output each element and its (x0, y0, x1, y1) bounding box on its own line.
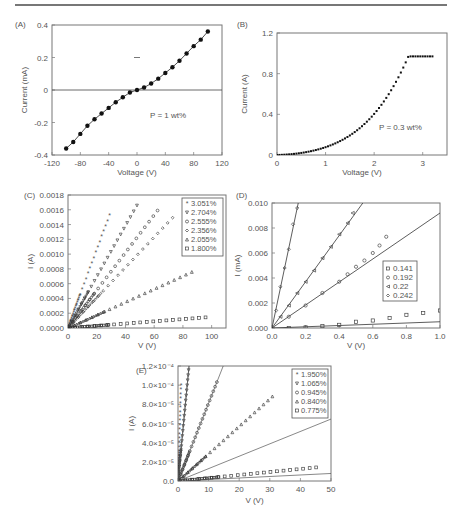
marker (337, 141, 339, 143)
y-axis-label: Current (mA) (20, 67, 29, 114)
marker (113, 323, 116, 326)
marker (116, 239, 119, 242)
marker (230, 474, 233, 477)
y-tick-label: 0.0000 (40, 324, 65, 333)
marker (363, 259, 366, 262)
marker (84, 304, 86, 306)
marker (289, 469, 292, 472)
y-tick-label: 8.0×10⁻⁵ (142, 400, 174, 409)
x-tick-label: 100 (205, 332, 219, 341)
x-tick-label: 30 (265, 485, 274, 494)
legend-label: 3.051% (191, 199, 217, 208)
panel-label: (C) (24, 191, 35, 200)
marker (354, 131, 356, 133)
marker (209, 451, 212, 454)
x-tick-label: 10 (204, 485, 213, 494)
marker (271, 395, 274, 398)
marker (388, 93, 390, 95)
x-tick-label: 0.8 (401, 332, 413, 341)
marker (402, 67, 404, 69)
x-tick-label: 20 (92, 332, 101, 341)
marker (317, 148, 319, 150)
x-tick-label: 80 (178, 332, 187, 341)
marker (334, 142, 336, 144)
y-tick-label: 0.0 (163, 477, 175, 486)
marker (90, 296, 92, 298)
marker (281, 154, 283, 156)
marker (339, 140, 341, 142)
y-tick-label: 1.2 (262, 29, 274, 38)
marker (410, 55, 412, 57)
marker (385, 97, 387, 99)
annotation: P = 1 wt% (150, 111, 186, 120)
legend: 0.1410.1920.220.242 (383, 261, 417, 301)
marker (161, 284, 164, 287)
marker (86, 302, 88, 304)
marker (100, 292, 102, 294)
marker (87, 306, 89, 308)
marker (139, 321, 142, 324)
marker (93, 279, 96, 282)
marker (121, 95, 125, 99)
marker (256, 472, 259, 475)
legend-label: 2.704% (191, 208, 217, 217)
marker (149, 289, 152, 292)
marker (132, 258, 135, 261)
marker (151, 237, 154, 240)
marker (346, 273, 349, 276)
marker (383, 100, 385, 102)
marker (397, 76, 399, 78)
legend-label: 0.840% (301, 397, 327, 406)
y-tick-label: 0.010 (248, 199, 269, 208)
marker (89, 304, 91, 306)
marker (253, 411, 256, 414)
marker (142, 85, 146, 89)
marker (249, 472, 252, 475)
y-tick-label: 0.0008 (40, 265, 65, 274)
y-tick-label: 0.8 (262, 70, 274, 79)
marker (114, 265, 117, 268)
marker: * (186, 200, 189, 207)
marker (267, 399, 270, 402)
marker (312, 150, 314, 152)
marker (126, 300, 129, 303)
marker (165, 319, 168, 322)
marker (300, 152, 302, 154)
panel-b: (B)00.40.81.20123Voltage (V)Current (A)P… (237, 20, 447, 177)
y-tick-label: 0.0014 (40, 221, 65, 230)
marker (327, 145, 329, 147)
marker (218, 443, 221, 446)
marker (122, 269, 125, 272)
marker (178, 318, 181, 321)
marker (204, 316, 207, 319)
marker (222, 439, 225, 442)
x-tick-label: 120 (215, 159, 229, 168)
x-axis-label: V (V) (245, 496, 264, 505)
marker (240, 423, 243, 426)
marker (344, 137, 346, 139)
marker (371, 251, 374, 254)
marker (106, 256, 109, 259)
marker (351, 211, 354, 214)
marker (173, 279, 176, 282)
marker (236, 474, 239, 477)
marker (185, 273, 188, 276)
marker (132, 210, 135, 213)
marker (64, 146, 68, 150)
marker (92, 117, 96, 121)
marker (191, 44, 195, 48)
marker (114, 305, 117, 308)
marker (308, 467, 311, 470)
marker (380, 104, 382, 106)
y-axis-label: I (A) (127, 416, 136, 431)
panel-label: (D) (236, 191, 247, 200)
marker (395, 81, 397, 83)
legend-label: 0.242 (393, 291, 414, 300)
marker (359, 127, 361, 129)
marker (119, 233, 122, 236)
marker (138, 294, 141, 297)
marker (325, 146, 327, 148)
fit-line (272, 322, 440, 328)
marker (166, 221, 169, 224)
marker (376, 110, 378, 112)
